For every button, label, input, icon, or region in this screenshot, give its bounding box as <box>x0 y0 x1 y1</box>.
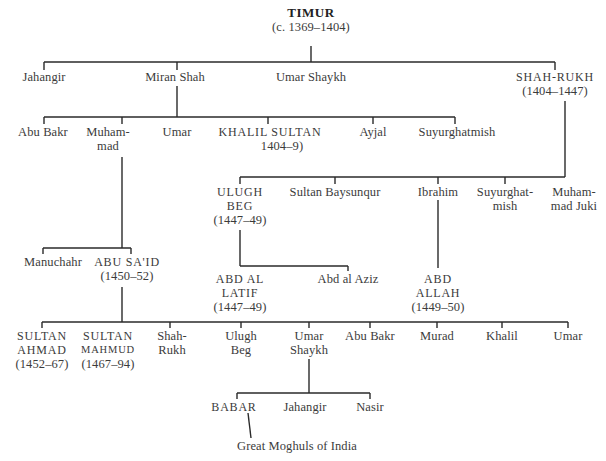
node-abd-allah: ABD ALLAH (1449–50) <box>412 272 465 314</box>
node-shah-rukh: SHAH-RUKH (1404–1447) <box>516 70 594 98</box>
node-umar-2: Umar <box>554 329 583 343</box>
node-name: ABD <box>412 272 465 286</box>
node-murad: Murad <box>420 329 454 343</box>
node-name: Umar Shaykh <box>276 70 346 84</box>
node-name: SHAH-RUKH <box>516 70 594 84</box>
node-name-line2: MAHMUD <box>81 343 135 357</box>
node-ibrahim: Ibrahim <box>418 185 458 199</box>
node-suyurghatmish: Suyurghatmish <box>419 125 496 139</box>
node-jahangir-2: Jahangir <box>283 400 326 414</box>
node-dates: (1447–49) <box>214 213 267 227</box>
node-umar-shaykh-gen1: Umar Shaykh <box>276 70 346 84</box>
node-timur: TIMUR (c. 1369–1404) <box>272 6 350 34</box>
node-dates: (1447–49) <box>214 300 267 314</box>
node-dates: (1449–50) <box>412 300 465 314</box>
node-name: Khalil <box>486 329 518 343</box>
node-name: Muham- <box>86 125 130 139</box>
node-name: Umar <box>554 329 583 343</box>
node-name: SULTAN <box>16 329 69 343</box>
node-name: Shah- <box>157 329 187 343</box>
node-name: SULTAN <box>81 329 135 343</box>
node-nasir: Nasir <box>356 400 384 414</box>
node-name: Umar <box>290 329 328 343</box>
node-sultan-mahmud: SULTAN MAHMUD (1467–94) <box>81 329 135 371</box>
node-name-line2: Rukh <box>157 343 187 357</box>
node-sultan-ahmad: SULTAN AHMAD (1452–67) <box>16 329 69 371</box>
node-dates: (c. 1369–1404) <box>272 20 350 34</box>
node-khalil: Khalil <box>486 329 518 343</box>
node-khalil-sultan: KHALIL SULTAN 1404–9) <box>219 125 322 153</box>
node-sultan-baysunqur: Sultan Baysunqur <box>290 185 381 199</box>
node-abd-al-aziz: Abd al Aziz <box>318 272 379 286</box>
line-babar-down <box>248 413 251 438</box>
node-name: Suyurghat- <box>477 185 533 199</box>
node-suyurghatmish-2: Suyurghat- mish <box>477 185 533 213</box>
node-ulugh-beg: ULUGH BEG (1447–49) <box>214 185 267 227</box>
node-name: Nasir <box>356 400 384 414</box>
node-great-moghuls: Great Moghuls of India <box>237 439 357 453</box>
node-name: Ayjal <box>359 125 386 139</box>
node-name: BABAR <box>211 400 256 414</box>
node-name-line2: AHMAD <box>16 343 69 357</box>
node-manuchahr: Manuchahr <box>24 255 82 269</box>
node-name-line2: BEG <box>214 199 267 213</box>
node-dates: (1450–52) <box>94 269 160 283</box>
node-name: Sultan Baysunqur <box>290 185 381 199</box>
node-abd-al-latif: ABD AL LATIF (1447–49) <box>214 272 267 314</box>
node-dates: (1404–1447) <box>516 84 594 98</box>
node-name: Manuchahr <box>24 255 82 269</box>
node-name-line2: Beg <box>225 343 257 357</box>
node-name-line2: ALLAH <box>412 286 465 300</box>
node-name: Umar <box>163 125 192 139</box>
node-babar: BABAR <box>211 400 256 414</box>
node-name: Abd al Aziz <box>318 272 379 286</box>
node-name: KHALIL SULTAN <box>219 125 322 139</box>
node-muhammad: Muham- mad <box>86 125 130 153</box>
node-name-line2: LATIF <box>214 286 267 300</box>
node-name-line2: mish <box>477 199 533 213</box>
node-name-line2: mad Juki <box>551 199 597 213</box>
node-ayjal: Ayjal <box>359 125 386 139</box>
node-name: Abu Bakr <box>345 329 395 343</box>
node-name: ABD AL <box>214 272 267 286</box>
node-name-line2: Shaykh <box>290 343 328 357</box>
node-abu-said: ABU SA'ID (1450–52) <box>94 255 160 283</box>
node-umar-shaykh: Umar Shaykh <box>290 329 328 357</box>
node-umar: Umar <box>163 125 192 139</box>
node-name: TIMUR <box>272 6 350 20</box>
node-abu-bakr: Abu Bakr <box>18 125 68 139</box>
node-name: Muham- <box>551 185 597 199</box>
node-name: Ulugh <box>225 329 257 343</box>
node-name: ULUGH <box>214 185 267 199</box>
node-name: Murad <box>420 329 454 343</box>
node-abu-bakr-2: Abu Bakr <box>345 329 395 343</box>
node-jahangir: Jahangir <box>22 70 65 84</box>
node-name: Jahangir <box>22 70 65 84</box>
node-name: Jahangir <box>283 400 326 414</box>
node-name: Ibrahim <box>418 185 458 199</box>
node-name: ABU SA'ID <box>94 255 160 269</box>
node-shah-rukh-2: Shah- Rukh <box>157 329 187 357</box>
node-ulugh-beg-2: Ulugh Beg <box>225 329 257 357</box>
node-name: Suyurghatmish <box>419 125 496 139</box>
node-dates: 1404–9) <box>219 139 322 153</box>
node-muhammad-juki: Muham- mad Juki <box>551 185 597 213</box>
node-miran-shah: Miran Shah <box>145 70 205 84</box>
node-name-line2: mad <box>86 139 130 153</box>
node-name: Abu Bakr <box>18 125 68 139</box>
node-dates: (1452–67) <box>16 357 69 371</box>
node-dates: (1467–94) <box>81 357 135 371</box>
node-name: Miran Shah <box>145 70 205 84</box>
node-name: Great Moghuls of India <box>237 439 357 453</box>
